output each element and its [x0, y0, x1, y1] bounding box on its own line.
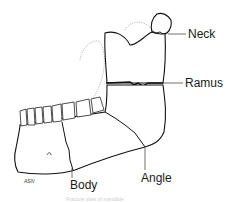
- ramus-label: Ramus: [185, 77, 223, 89]
- body-label: Body: [70, 179, 97, 191]
- condyle-head: [151, 13, 171, 34]
- artist-signature: ASN: [24, 178, 34, 184]
- ramus-upper: [105, 31, 166, 83]
- coronoid-outline-dotted: [80, 41, 104, 100]
- figure-caption: Fracture sites of mandible: [66, 196, 124, 202]
- condyle-outline-dotted: [125, 22, 150, 30]
- angle-label: Angle: [141, 172, 172, 184]
- neck-label: Neck: [188, 28, 215, 40]
- mandible-body: [15, 85, 166, 174]
